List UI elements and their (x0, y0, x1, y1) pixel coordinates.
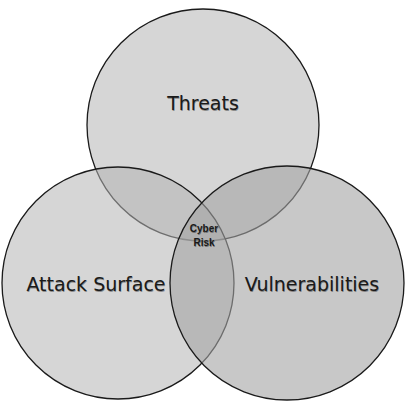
cyber-risk-line2: Risk (190, 236, 218, 250)
label-cyber-risk: Cyber Risk (190, 222, 218, 250)
venn-diagram (0, 0, 405, 402)
label-attack-surface: Attack Surface (26, 273, 165, 295)
label-vulnerabilities: Vulnerabilities (245, 273, 379, 295)
cyber-risk-line1: Cyber (190, 222, 218, 236)
label-threats: Threats (167, 92, 239, 114)
